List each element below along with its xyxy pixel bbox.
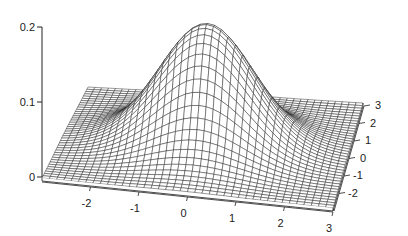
- y-tick: [344, 175, 350, 176]
- z-tick-label: 0.2: [20, 21, 35, 33]
- x-tick-label: 3: [326, 222, 332, 234]
- y-tick: [359, 123, 365, 124]
- y-tick-label: 0: [360, 152, 366, 164]
- z-tick-label: 0: [29, 171, 35, 183]
- y-tick: [364, 105, 370, 106]
- x-tick: [138, 192, 139, 196]
- x-tick: [332, 212, 333, 216]
- x-tick: [235, 202, 236, 206]
- y-tick-label: -1: [353, 169, 363, 181]
- surface-plot: 00.10.2 -2-10123 -2-10123: [0, 0, 408, 236]
- x-tick-label: 1: [229, 212, 235, 224]
- y-tick-label: 3: [375, 99, 381, 111]
- x-tick: [90, 187, 91, 191]
- y-tick: [349, 158, 355, 159]
- x-tick: [187, 197, 188, 201]
- y-tick-label: 1: [365, 134, 371, 146]
- x-tick-label: 0: [180, 207, 186, 219]
- y-tick-label: 2: [370, 117, 376, 129]
- y-tick: [354, 140, 360, 141]
- x-tick-label: -2: [82, 197, 92, 209]
- z-axis: 00.10.2: [20, 21, 42, 183]
- y-tick: [339, 193, 345, 194]
- x-tick: [284, 207, 285, 211]
- x-tick-label: -1: [130, 202, 140, 214]
- z-tick-label: 0.1: [20, 96, 35, 108]
- x-tick-label: 2: [277, 217, 283, 229]
- surface-mesh: [42, 24, 363, 209]
- y-tick-label: -2: [348, 187, 358, 199]
